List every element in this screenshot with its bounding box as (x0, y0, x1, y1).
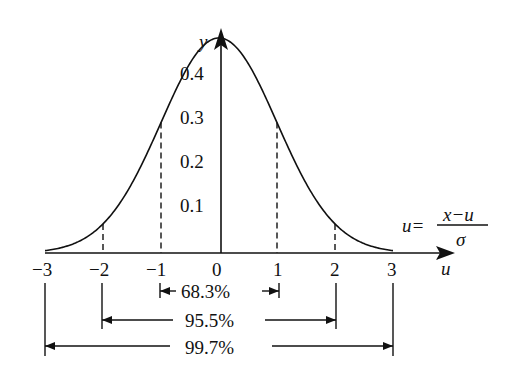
x-tick-2: 2 (330, 259, 340, 280)
normal-curve (45, 38, 393, 251)
y-tick-0-1: 0.1 (180, 195, 204, 216)
y-tick-0-3: 0.3 (180, 107, 204, 128)
x-tick-neg1: −1 (146, 259, 166, 280)
interval-99-label: 99.7% (185, 337, 234, 358)
normal-distribution-diagram: 0.4 0.3 0.2 0.1 y u u= x−u σ −3 −2 −1 0 … (0, 0, 513, 382)
interval-95-label: 95.5% (185, 310, 234, 331)
x-tick-1: 1 (273, 259, 283, 280)
y-tick-0-4: 0.4 (180, 63, 204, 84)
y-tick-0-2: 0.2 (180, 151, 204, 172)
y-axis-label: y (197, 31, 208, 52)
x-tick-neg2: −2 (89, 259, 109, 280)
formula-numerator: x−u (442, 204, 474, 225)
formula-denominator: σ (456, 229, 466, 250)
x-tick-3: 3 (387, 259, 397, 280)
x-tick-neg3: −3 (32, 259, 52, 280)
interval-68: 68.3% (160, 281, 279, 302)
dashed-guides (103, 123, 335, 253)
x-tick-0: 0 (212, 259, 222, 280)
x-axis-label: u (441, 258, 451, 279)
interval-68-label: 68.3% (181, 281, 230, 302)
formula-lhs: u= (402, 215, 424, 236)
